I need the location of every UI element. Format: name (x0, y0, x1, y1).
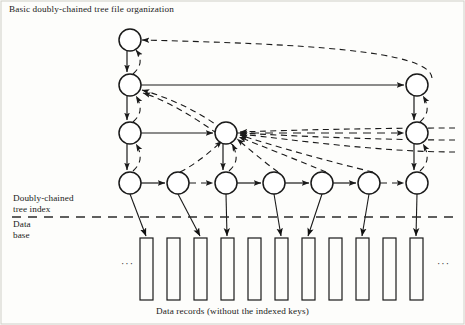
parent-pointer (420, 96, 427, 122)
tree-leaf-node (311, 172, 333, 194)
tree-node (406, 74, 428, 96)
tree-leaf-node (167, 172, 189, 194)
data-record (167, 238, 180, 300)
records-ellipsis-right: ··· (437, 258, 450, 269)
data-record (329, 238, 342, 300)
doubly-chained-tree-diagram (0, 0, 465, 325)
parent-pointer-edges-group (133, 40, 455, 172)
tree-leaf-node (263, 172, 285, 194)
parent-pointer (133, 50, 140, 74)
data-record (275, 238, 288, 300)
data-records-caption: Data records (without the indexed keys) (0, 306, 465, 317)
parent-pointer (240, 135, 373, 172)
parent-pointer (142, 40, 432, 78)
records-ellipsis-left: ··· (121, 258, 134, 269)
data-record (194, 238, 207, 300)
parent-pointer (180, 141, 222, 172)
leaf-record-link (226, 194, 227, 236)
tree-leaf-node (358, 172, 380, 194)
data-record (140, 238, 153, 300)
tree-leaf-node (119, 172, 141, 194)
leaf-record-link (416, 194, 417, 236)
data-record (221, 238, 234, 300)
sibling-edges-group (141, 85, 404, 183)
tree-leaf-node (215, 172, 237, 194)
parent-pointer (142, 90, 222, 129)
leaf-record-link (362, 194, 369, 236)
tree-node-root (119, 29, 141, 51)
index-region-label: Doubly-chainedtree index (13, 193, 74, 215)
data-record (302, 238, 315, 300)
parent-pointer (420, 144, 427, 171)
leaf-record-links-group (130, 194, 417, 236)
leaf-record-link (130, 194, 146, 236)
parent-pointer (229, 144, 236, 171)
data-record (356, 238, 369, 300)
parent-pointer (133, 96, 140, 122)
figure-border (1, 1, 464, 324)
data-records-group (140, 238, 423, 300)
leaf-record-link (274, 194, 281, 236)
parent-pointer (133, 144, 140, 171)
tree-node (119, 122, 141, 144)
data-record (410, 238, 423, 300)
tree-node (215, 122, 237, 144)
child-edges-group (127, 51, 414, 170)
data-record (248, 238, 261, 300)
database-region-label: Database (13, 219, 31, 241)
tree-leaf-node (406, 172, 428, 194)
leaf-record-link (178, 194, 200, 236)
leaf-record-link (308, 194, 322, 236)
tree-node (119, 74, 141, 96)
data-record (383, 238, 396, 300)
figure-page: Basic doubly-chained tree file organizat… (0, 0, 465, 325)
tree-node (406, 122, 428, 144)
